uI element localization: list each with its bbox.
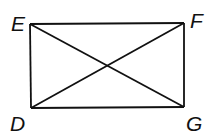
vertex-label-e: E — [11, 12, 26, 35]
vertex-label-f: F — [190, 9, 204, 32]
side-de — [30, 24, 31, 108]
vertex-label-d: D — [10, 112, 25, 135]
vertex-label-g: G — [186, 112, 202, 135]
rectangle-diagram: E F D G — [0, 0, 215, 139]
side-gd — [31, 107, 184, 108]
side-ef — [30, 23, 184, 24]
rectangle-edges — [30, 23, 184, 108]
